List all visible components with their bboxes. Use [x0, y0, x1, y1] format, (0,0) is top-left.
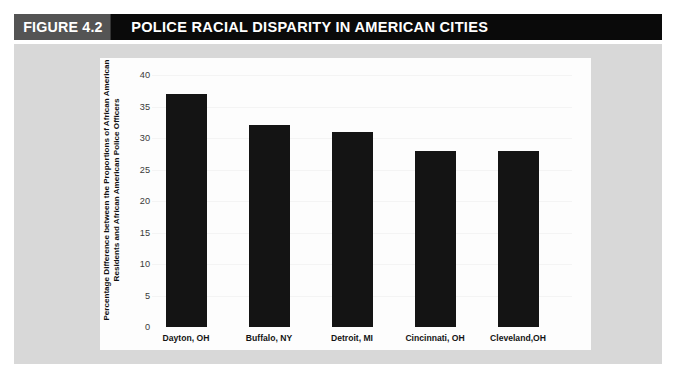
- bar-detroit-mi: [332, 132, 373, 327]
- bar-cleveland-oh: [498, 151, 539, 327]
- bar-buffalo-ny: [249, 125, 290, 327]
- bar-cincinnati-oh: [415, 151, 456, 327]
- bar-dayton-oh: [166, 94, 207, 327]
- bars-layer: Dayton, OH Buffalo, NY Detroit, MI Cinci…: [0, 0, 677, 381]
- x-tick-label: Cleveland,OH: [458, 333, 578, 343]
